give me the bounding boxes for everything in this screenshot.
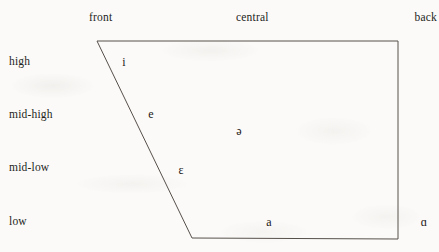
vowel-symbol-e: e [148,108,153,120]
vowel-symbol-a: a [266,216,271,228]
column-header-front: front [89,11,112,23]
column-header-central: central [236,11,269,23]
paper-texture [0,0,439,252]
vowel-symbol-schwa: ə [236,125,241,137]
vowel-quadrilateral-outline [0,0,439,252]
row-label-high: high [9,55,30,67]
vowel-symbol-script-a: ɑ [421,216,427,228]
vowel-symbol-open-e: ɛ [178,164,183,176]
row-label-mid-low: mid-low [9,161,49,173]
row-label-mid-high: mid-high [9,108,53,120]
quadrilateral-path [97,41,398,239]
row-label-low: low [9,215,27,227]
vowel-chart-figure: front central back high mid-high mid-low… [0,0,439,252]
vowel-symbol-i: i [122,56,125,68]
column-header-back: back [414,11,437,23]
